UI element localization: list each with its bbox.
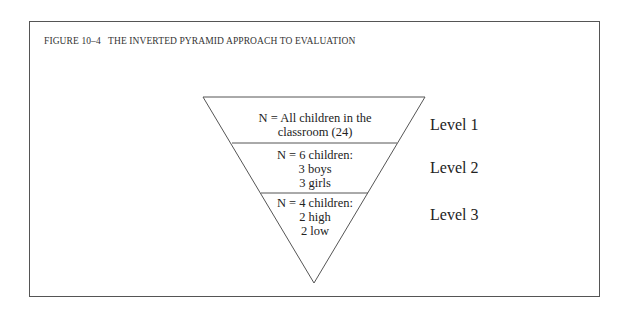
level-2-label: Level 2: [430, 159, 478, 177]
level-1-line-2: classroom (24): [230, 125, 400, 139]
level-2-line-2: 3 boys: [250, 162, 380, 176]
level-1-label: Level 1: [430, 116, 478, 134]
level-3-line-3: 2 low: [260, 224, 370, 238]
level-3-line-1: N = 4 children:: [260, 196, 370, 210]
level-2-line-1: N = 6 children:: [250, 148, 380, 162]
level-2-cell: N = 6 children: 3 boys 3 girls: [250, 148, 380, 190]
level-3-cell: N = 4 children: 2 high 2 low: [260, 196, 370, 238]
level-3-label: Level 3: [430, 206, 478, 224]
level-1-line-1: N = All children in the: [230, 111, 400, 125]
level-1-cell: N = All children in the classroom (24): [230, 111, 400, 139]
level-3-line-2: 2 high: [260, 210, 370, 224]
level-2-line-3: 3 girls: [250, 176, 380, 190]
